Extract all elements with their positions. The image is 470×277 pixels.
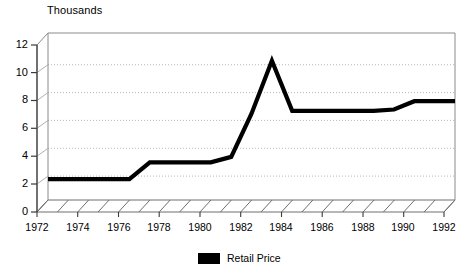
chart-plot-area [0,0,470,277]
x-tick-label-1992: 1992 [427,221,461,233]
chart-container: Thousands [0,0,470,277]
x-tick-label-1980: 1980 [183,221,217,233]
x-tick-label-1986: 1986 [305,221,339,233]
x-tick-label-1984: 1984 [264,221,298,233]
y-tick-label-12: 12 [2,38,28,50]
y-tick-label-10: 10 [2,66,28,78]
x-tick-label-1974: 1974 [61,221,95,233]
left-wall-panel [37,33,48,212]
x-tick-label-1976: 1976 [102,221,136,233]
x-axis-ticks [37,212,444,217]
legend-label-retail-price: Retail Price [227,252,281,264]
y-tick-label-6: 6 [2,121,28,133]
y-tick-label-0: 0 [2,205,28,217]
x-tick-label-1982: 1982 [224,221,258,233]
y-tick-label-4: 4 [2,149,28,161]
y-axis-ticks [31,45,37,212]
x-tick-label-1990: 1990 [386,221,420,233]
x-tick-label-1978: 1978 [142,221,176,233]
chart-legend: Retail Price [198,252,281,264]
x-tick-label-1988: 1988 [346,221,380,233]
y-tick-label-2: 2 [2,177,28,189]
x-tick-label-1972: 1972 [20,221,54,233]
legend-swatch-retail-price [198,253,220,264]
y-tick-label-8: 8 [2,93,28,105]
